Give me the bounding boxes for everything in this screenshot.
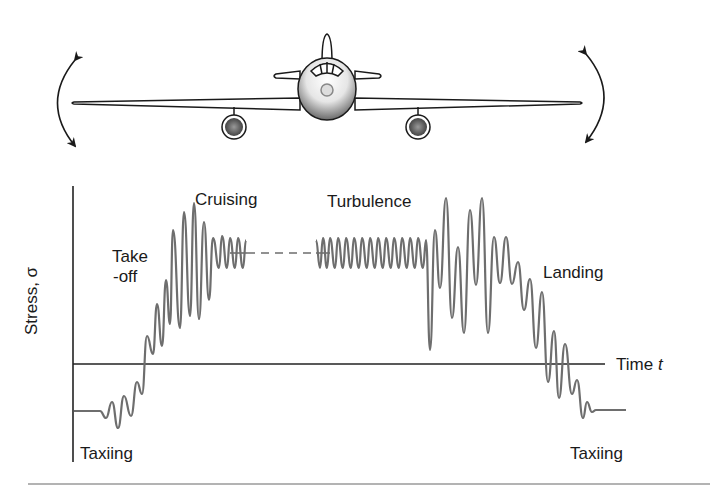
x-axis-label: Time t [616, 355, 663, 374]
airplane-front-view-icon [72, 34, 582, 139]
cruising-label: Cruising [195, 190, 257, 209]
stress-signal-line [74, 203, 246, 428]
takeoff-label-2: -off [113, 267, 137, 286]
stress-signal-line-2 [316, 198, 626, 418]
taxiing-start-label: Taxiing [80, 444, 133, 463]
stress-diagram [0, 0, 710, 493]
takeoff-label-1: Take [112, 247, 148, 266]
turbulence-label: Turbulence [327, 192, 411, 211]
taxiing-end-label: Taxiing [570, 444, 623, 463]
curved-double-arrow-right-icon [586, 54, 604, 142]
landing-label: Landing [543, 263, 604, 282]
y-axis-label: Stress, σ [22, 267, 42, 335]
